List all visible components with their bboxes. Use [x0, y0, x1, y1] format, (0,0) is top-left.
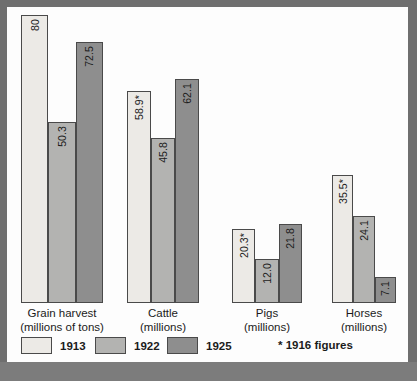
bar-value-label: 12.0: [262, 263, 273, 284]
legend-item-1913[interactable]: 1913: [21, 337, 86, 354]
figure-frame-left: [0, 0, 7, 381]
category-label-horses: Horses (millions): [304, 307, 408, 334]
bar-value-label: 58.9*: [134, 95, 145, 120]
category-unit: (millions): [103, 321, 223, 335]
bar-group-grain-harvest: 80 50.3 72.5 Grain harvest (millions of …: [21, 7, 103, 303]
bar-value-label: 7.1: [380, 281, 391, 296]
bar-cattle-1925[interactable]: 62.1: [175, 79, 199, 303]
legend-label-1913: 1913: [60, 340, 86, 352]
bar-value-label: 20.3*: [238, 233, 249, 258]
plot-area: 80 50.3 72.5 Grain harvest (millions of …: [7, 7, 408, 303]
bar-horses-1913[interactable]: 35.5*: [332, 175, 353, 303]
chart-canvas: 80 50.3 72.5 Grain harvest (millions of …: [7, 7, 408, 362]
bar-group-bars: 20.3* 12.0 21.8: [232, 7, 302, 303]
bar-value-label: 24.1: [359, 220, 370, 241]
figure-frame-top: [0, 0, 417, 7]
bar-value-label: 62.1: [182, 83, 193, 104]
bar-chart-figure: 80 50.3 72.5 Grain harvest (millions of …: [0, 0, 417, 381]
bar-group-bars: 58.9* 45.8 62.1: [127, 7, 199, 303]
bar-value-label: 50.3: [57, 126, 68, 147]
bar-grain-harvest-1922[interactable]: 50.3: [48, 122, 75, 303]
bar-value-label: 35.5*: [337, 179, 348, 204]
bar-value-label: 72.5: [84, 46, 95, 67]
bar-value-label: 80: [29, 19, 40, 31]
category-label-cattle: Cattle (millions): [103, 307, 223, 334]
figure-frame-bottom: [0, 362, 417, 381]
category-name: Horses: [304, 307, 408, 321]
bar-horses-1925[interactable]: 7.1: [375, 277, 396, 303]
legend-label-1925: 1925: [206, 340, 232, 352]
bar-grain-harvest-1925[interactable]: 72.5: [76, 42, 103, 303]
legend-item-1922[interactable]: 1922: [95, 337, 160, 354]
legend-label-1922: 1922: [134, 340, 160, 352]
category-unit: (millions): [304, 321, 408, 335]
bar-group-cattle: 58.9* 45.8 62.1 Cattle (millions): [127, 7, 199, 303]
bar-cattle-1922[interactable]: 45.8: [151, 138, 175, 303]
bar-value-label: 45.8: [158, 142, 169, 163]
bar-cattle-1913[interactable]: 58.9*: [127, 91, 151, 303]
bar-pigs-1922[interactable]: 12.0: [255, 259, 278, 303]
bar-group-bars: 35.5* 24.1 7.1: [332, 7, 396, 303]
legend-item-1925[interactable]: 1925: [167, 337, 232, 354]
legend-swatch-1925: [167, 337, 198, 354]
bar-pigs-1925[interactable]: 21.8: [279, 224, 302, 303]
figure-frame-right: [408, 0, 417, 381]
bar-horses-1922[interactable]: 24.1: [353, 216, 374, 303]
bar-grain-harvest-1913[interactable]: 80: [21, 15, 48, 303]
chart-footnote: * 1916 figures: [278, 339, 353, 351]
legend-swatch-1913: [21, 337, 52, 354]
legend-swatch-1922: [95, 337, 126, 354]
chart-legend: 1913 1922 1925 * 1916 figures: [7, 337, 408, 362]
bar-group-bars: 80 50.3 72.5: [21, 7, 103, 303]
bar-value-label: 21.8: [285, 228, 296, 249]
bar-pigs-1913[interactable]: 20.3*: [232, 229, 255, 303]
category-name: Cattle: [103, 307, 223, 321]
bar-group-horses: 35.5* 24.1 7.1 Horses (millions): [332, 7, 396, 303]
bar-group-pigs: 20.3* 12.0 21.8 Pigs (millions): [232, 7, 302, 303]
